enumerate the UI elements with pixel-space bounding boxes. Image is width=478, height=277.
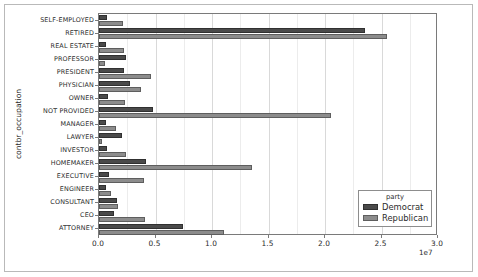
x-tick-label: 2.5 bbox=[375, 239, 387, 248]
bar-democrat[interactable] bbox=[99, 42, 106, 47]
y-tick-label: CEO bbox=[0, 211, 94, 219]
legend-box: party Democrat Republican bbox=[358, 190, 432, 227]
x-tick-mark bbox=[98, 235, 99, 238]
x-tick-mark bbox=[324, 235, 325, 238]
y-tick-label: PRESIDENT bbox=[0, 68, 94, 76]
bar-democrat[interactable] bbox=[99, 81, 130, 86]
bar-republican[interactable] bbox=[99, 217, 145, 222]
bar-democrat[interactable] bbox=[99, 120, 106, 125]
bar-republican[interactable] bbox=[99, 100, 125, 105]
y-tick-label: INVESTOR bbox=[0, 146, 94, 154]
bar-republican[interactable] bbox=[99, 61, 105, 66]
legend-swatch-republican bbox=[363, 215, 378, 221]
y-tick-label: ATTORNEY bbox=[0, 224, 94, 232]
x-tick-mark bbox=[155, 235, 156, 238]
bar-democrat[interactable] bbox=[99, 133, 122, 138]
bar-republican[interactable] bbox=[99, 21, 123, 26]
bar-republican[interactable] bbox=[99, 165, 252, 170]
bar-republican[interactable] bbox=[99, 230, 224, 235]
y-tick-label: CONSULTANT bbox=[0, 198, 94, 206]
bar-republican[interactable] bbox=[99, 204, 118, 209]
x-tick-mark bbox=[381, 235, 382, 238]
bar-democrat[interactable] bbox=[99, 55, 126, 60]
y-tick-label: NOT PROVIDED bbox=[0, 107, 94, 115]
x-tick-label: 1.0 bbox=[205, 239, 217, 248]
bar-republican[interactable] bbox=[99, 34, 387, 39]
y-tick-label: RETIRED bbox=[0, 29, 94, 37]
legend-swatch-democrat bbox=[363, 204, 378, 210]
legend-title: party bbox=[363, 193, 427, 201]
y-tick-label: SELF-EMPLOYED bbox=[0, 16, 94, 24]
bar-democrat[interactable] bbox=[99, 28, 365, 33]
y-tick-label: HOMEMAKER bbox=[0, 159, 94, 167]
bar-republican[interactable] bbox=[99, 87, 141, 92]
legend-item-republican[interactable]: Republican bbox=[363, 213, 427, 223]
legend-item-democrat[interactable]: Democrat bbox=[363, 202, 427, 212]
bar-democrat[interactable] bbox=[99, 172, 109, 177]
x-axis-exponent-label: 1e7 bbox=[419, 248, 433, 257]
bar-democrat[interactable] bbox=[99, 146, 107, 151]
x-tick-mark bbox=[211, 235, 212, 238]
bar-democrat[interactable] bbox=[99, 15, 107, 20]
x-tick-label: 3.0 bbox=[431, 239, 443, 248]
bar-democrat[interactable] bbox=[99, 185, 106, 190]
y-tick-label: EXECUTIVE bbox=[0, 172, 94, 180]
bar-republican[interactable] bbox=[99, 74, 151, 79]
x-tick-label: 0.0 bbox=[92, 239, 104, 248]
x-tick-label: 0.5 bbox=[149, 239, 161, 248]
y-tick-label: REAL ESTATE bbox=[0, 42, 94, 50]
bar-republican[interactable] bbox=[99, 126, 116, 131]
bar-republican[interactable] bbox=[99, 191, 111, 196]
bar-democrat[interactable] bbox=[99, 198, 117, 203]
x-tick-label: 1.5 bbox=[262, 239, 274, 248]
legend-label-republican: Republican bbox=[382, 213, 428, 223]
bar-democrat[interactable] bbox=[99, 94, 108, 99]
bar-democrat[interactable] bbox=[99, 68, 124, 73]
legend-label-democrat: Democrat bbox=[382, 202, 423, 212]
bar-democrat[interactable] bbox=[99, 224, 183, 229]
bar-democrat[interactable] bbox=[99, 159, 146, 164]
y-tick-label: OWNER bbox=[0, 94, 94, 102]
x-tick-mark bbox=[437, 235, 438, 238]
bar-republican[interactable] bbox=[99, 139, 102, 144]
x-tick-mark bbox=[268, 235, 269, 238]
bar-republican[interactable] bbox=[99, 48, 124, 53]
x-tick-label: 2.0 bbox=[318, 239, 330, 248]
y-tick-label: MANAGER bbox=[0, 120, 94, 128]
figure-canvas: contbr_occupation SELF-EMPLOYEDRETIREDRE… bbox=[0, 0, 478, 277]
bar-republican[interactable] bbox=[99, 178, 144, 183]
bar-republican[interactable] bbox=[99, 113, 331, 118]
y-tick-label: PROFESSOR bbox=[0, 55, 94, 63]
bar-democrat[interactable] bbox=[99, 107, 153, 112]
bar-democrat[interactable] bbox=[99, 211, 114, 216]
y-tick-label: ENGINEER bbox=[0, 185, 94, 193]
bar-republican[interactable] bbox=[99, 152, 126, 157]
y-tick-label: LAWYER bbox=[0, 133, 94, 141]
y-tick-label: PHYSICIAN bbox=[0, 81, 94, 89]
